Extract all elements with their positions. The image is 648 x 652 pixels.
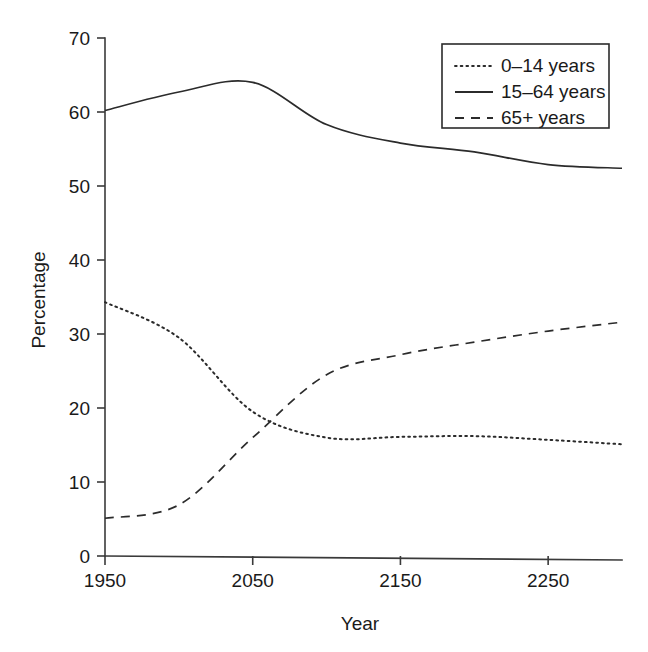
legend-label: 15–64 years	[501, 81, 606, 102]
legend-label: 65+ years	[501, 107, 585, 128]
y-tick-label: 40	[69, 250, 90, 271]
x-axis-line	[105, 556, 622, 560]
legend-label: 0–14 years	[501, 55, 595, 76]
x-tick-label: 1950	[84, 570, 126, 591]
x-tick-label: 2250	[527, 570, 569, 591]
series-line-65-years	[105, 322, 622, 518]
chart-canvas: 010203040506070 1950205021502250 Percent…	[0, 0, 648, 652]
chart-figure: 010203040506070 1950205021502250 Percent…	[0, 0, 648, 652]
x-tick-label: 2050	[232, 570, 274, 591]
y-tick-label: 30	[69, 324, 90, 345]
y-axis-ticks: 010203040506070	[69, 28, 105, 567]
y-tick-label: 60	[69, 102, 90, 123]
series-line-0-14-years	[105, 302, 622, 444]
x-axis-ticks: 1950205021502250	[84, 556, 569, 591]
y-tick-label: 0	[79, 546, 90, 567]
y-tick-label: 20	[69, 398, 90, 419]
y-axis-title: Percentage	[28, 251, 49, 348]
data-series-group	[105, 81, 622, 518]
x-axis-title: Year	[341, 613, 380, 634]
chart-legend: 0–14 years15–64 years65+ years	[442, 44, 609, 128]
y-tick-label: 50	[69, 176, 90, 197]
y-tick-label: 70	[69, 28, 90, 49]
y-tick-label: 10	[69, 472, 90, 493]
x-tick-label: 2150	[379, 570, 421, 591]
